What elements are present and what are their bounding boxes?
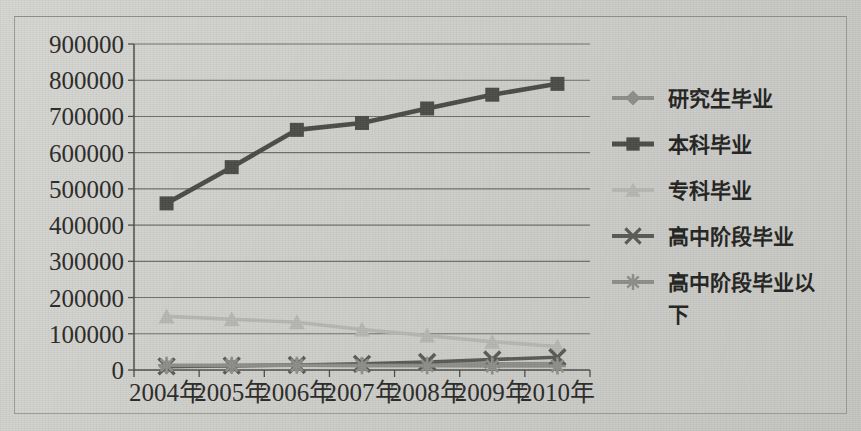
data-point-square: [160, 196, 174, 210]
chart-legend: 研究生毕业本科毕业专科毕业高中阶段毕业高中阶段毕业以下: [612, 87, 815, 327]
y-axis-tick-label: 800000: [49, 67, 124, 94]
data-point-asterisk: [158, 357, 175, 374]
chart-page: 0100000200000300000400000500000600000700…: [0, 0, 861, 431]
x-axis-tick-label: 2009年: [455, 379, 530, 406]
data-point-square: [626, 137, 639, 150]
legend-label: 高中阶段毕业以: [668, 271, 815, 295]
data-point-square: [290, 123, 304, 137]
data-point-square: [420, 101, 434, 115]
data-point-asterisk: [625, 274, 641, 290]
y-axis-tick-label: 200000: [49, 285, 124, 312]
y-axis-tick-label: 300000: [49, 248, 124, 275]
series-triangle: [159, 308, 566, 353]
data-point-asterisk: [419, 357, 436, 374]
y-axis-tick-label: 0: [112, 357, 125, 384]
x-axis-tick-label: 2006年: [259, 379, 334, 406]
data-point-square: [355, 116, 369, 130]
y-axis-tick-label: 900000: [49, 31, 124, 58]
line-chart: 0100000200000300000400000500000600000700…: [0, 0, 861, 431]
y-axis-tick-label: 400000: [49, 212, 124, 239]
data-point-square: [550, 77, 564, 91]
x-axis-tick-label: 2005年: [194, 379, 269, 406]
data-point-asterisk: [223, 357, 240, 374]
data-point-asterisk: [354, 357, 371, 374]
legend-item-5[interactable]: 高中阶段毕业以下: [612, 271, 815, 327]
chart-plot-container: 0100000200000300000400000500000600000700…: [0, 0, 861, 431]
y-axis-tick-label: 600000: [49, 140, 124, 167]
x-axis-tick-label: 2008年: [390, 379, 465, 406]
data-point-asterisk: [549, 358, 566, 375]
data-point-diamond: [625, 90, 640, 105]
legend-label: 专科毕业: [668, 179, 752, 203]
legend-item-2[interactable]: 本科毕业: [612, 133, 752, 157]
legend-item-1[interactable]: 研究生毕业: [612, 87, 773, 111]
x-axis-tick-label: 2010年: [520, 379, 595, 406]
data-point-asterisk: [288, 357, 305, 374]
x-axis-tick-labels: 2004年2005年2006年2007年2008年2009年2010年: [129, 379, 595, 406]
y-axis-tick-labels: 0100000200000300000400000500000600000700…: [49, 31, 124, 384]
y-axis-tick-label: 700000: [49, 103, 124, 130]
y-axis-tick-label: 100000: [49, 321, 124, 348]
y-axis-tick-label: 500000: [49, 176, 124, 203]
series-line: [167, 84, 558, 204]
legend-label: 研究生毕业: [668, 87, 773, 111]
legend-label: 高中阶段毕业: [668, 225, 794, 249]
x-axis-tick-label: 2007年: [325, 379, 400, 406]
series-square: [160, 77, 565, 211]
legend-item-4[interactable]: 高中阶段毕业: [612, 225, 794, 249]
axes-group: [128, 44, 590, 377]
data-point-asterisk: [484, 358, 501, 375]
data-series-group: [158, 77, 566, 375]
data-point-square: [225, 160, 239, 174]
legend-label-cont: 下: [668, 303, 689, 327]
x-axis-tick-label: 2004年: [129, 379, 204, 406]
data-point-square: [485, 88, 499, 102]
legend-item-3[interactable]: 专科毕业: [612, 179, 752, 203]
legend-label: 本科毕业: [668, 133, 752, 157]
gridlines-group: [134, 44, 590, 334]
